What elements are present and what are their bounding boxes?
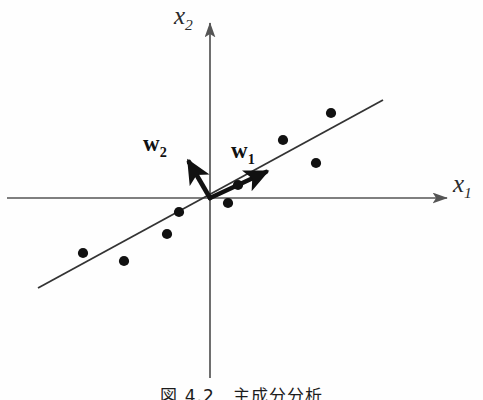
- data-point: [78, 248, 88, 258]
- x-axis-label: x1: [453, 170, 472, 202]
- w2-label-base: w: [143, 131, 160, 156]
- figure-canvas: [0, 0, 483, 400]
- x-axis-label-base: x: [453, 170, 464, 197]
- data-point: [326, 108, 336, 118]
- y-axis-label-subscript: 2: [185, 16, 193, 33]
- w1-label-subscript: 1: [248, 151, 255, 167]
- data-point: [311, 158, 321, 168]
- data-point: [233, 180, 243, 190]
- figure-caption: 図 4.2 主成分分析: [0, 382, 483, 400]
- x-axis-label-subscript: 1: [464, 184, 472, 201]
- data-point: [278, 135, 288, 145]
- principal-component-analysis-figure: x2 x1 w2 w1 図 4.2 主成分分析: [0, 0, 483, 400]
- w2-vector-label: w2: [143, 131, 167, 161]
- w1-vector-label: w1: [231, 138, 255, 168]
- w1-label-base: w: [231, 138, 248, 163]
- data-point: [223, 198, 233, 208]
- w2-vector-arrow: [189, 162, 210, 198]
- w2-label-subscript: 2: [160, 144, 167, 160]
- data-point: [119, 256, 129, 266]
- y-axis-label-base: x: [174, 2, 185, 29]
- data-point: [174, 207, 184, 217]
- data-point: [162, 229, 172, 239]
- y-axis-label: x2: [174, 2, 193, 34]
- scatter-points-group: [78, 108, 336, 266]
